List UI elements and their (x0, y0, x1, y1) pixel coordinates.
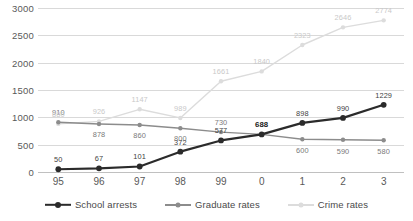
x-axis-tick-label: 2 (340, 176, 346, 187)
data-point-label: 990 (337, 103, 350, 112)
data-point[interactable] (259, 69, 263, 73)
data-point-label: 730 (215, 118, 228, 127)
data-point-label: 1661 (213, 67, 230, 76)
legend-item-crime-rates[interactable]: Crime rates (288, 199, 368, 210)
data-point-label: 580 (377, 147, 390, 156)
data-point-label: 926 (93, 107, 106, 116)
x-axis-tick-label: 97 (134, 176, 145, 187)
legend-item-label: Graduate rates (195, 199, 260, 210)
data-point-label: 2323 (294, 31, 311, 40)
legend-swatch-icon (165, 200, 191, 209)
y-axis-tick-label: 1000 (0, 112, 34, 123)
data-point[interactable] (55, 166, 61, 172)
series-line-school-arrests (58, 105, 383, 169)
data-point[interactable] (299, 120, 305, 126)
data-point[interactable] (137, 164, 143, 170)
data-point[interactable] (381, 102, 387, 108)
data-point-label: 577 (215, 126, 228, 135)
x-axis-tick-label: 95 (53, 176, 64, 187)
legend-item-school-arrests[interactable]: School arrests (45, 199, 137, 210)
line-chart: 050010001500200025003000 506710137257768… (0, 0, 413, 221)
data-point-label: 800 (174, 134, 187, 143)
x-axis-tick-label: 0 (259, 176, 265, 187)
data-point[interactable] (300, 43, 304, 47)
data-point-label: 600 (296, 146, 309, 155)
legend-swatch-icon (45, 200, 71, 209)
data-point-label: 880 (52, 109, 65, 118)
x-axis-tick-label: 99 (215, 176, 226, 187)
data-point[interactable] (341, 25, 345, 29)
data-point[interactable] (381, 18, 385, 22)
y-axis: 050010001500200025003000 (0, 8, 34, 172)
data-point-label: 688 (255, 120, 268, 129)
data-point[interactable] (177, 149, 183, 155)
data-point[interactable] (218, 138, 224, 144)
plot-area: 5067101372577688898990122991087886080073… (38, 8, 404, 172)
chart-legend: School arrests Graduate rates Crime rate… (0, 199, 413, 210)
data-point[interactable] (219, 79, 223, 83)
data-point-label: 989 (174, 103, 187, 112)
data-point-label: 860 (133, 130, 146, 139)
legend-swatch-icon (288, 200, 314, 209)
data-point[interactable] (56, 120, 60, 124)
data-point[interactable] (96, 165, 102, 171)
y-axis-tick-label: 3000 (0, 3, 34, 14)
data-point[interactable] (340, 115, 346, 121)
data-point-label: 1147 (132, 95, 148, 104)
x-axis-tick-label: 3 (381, 176, 387, 187)
data-point[interactable] (137, 107, 141, 111)
data-point-label: 101 (133, 152, 146, 161)
data-point-label: 50 (54, 155, 62, 164)
data-point-label: 1840 (253, 57, 270, 66)
legend-item-label: School arrests (75, 199, 137, 210)
x-axis-tick-label: 1 (300, 176, 306, 187)
data-point[interactable] (381, 138, 385, 142)
data-point[interactable] (137, 123, 141, 127)
x-axis-tick-label: 98 (175, 176, 186, 187)
data-point-label: 67 (95, 154, 103, 163)
x-axis-tick-label: 96 (93, 176, 104, 187)
y-axis-tick-label: 500 (0, 139, 34, 150)
y-axis-tick-label: 0 (0, 167, 34, 178)
data-point-label: 1229 (375, 90, 392, 99)
axis-baseline (38, 172, 404, 173)
data-point-label: 2646 (335, 13, 352, 22)
data-point-label: 878 (93, 130, 106, 139)
data-point-label: 2774 (375, 6, 392, 15)
y-axis-tick-label: 1500 (0, 85, 34, 96)
data-point[interactable] (259, 131, 265, 137)
legend-item-graduate-rates[interactable]: Graduate rates (165, 199, 260, 210)
data-point[interactable] (300, 137, 304, 141)
y-axis-tick-label: 2500 (0, 30, 34, 41)
y-axis-tick-label: 2000 (0, 57, 34, 68)
data-point-label: 898 (296, 108, 309, 117)
data-point[interactable] (97, 122, 101, 126)
data-point[interactable] (178, 126, 182, 130)
data-point[interactable] (341, 138, 345, 142)
data-point[interactable] (178, 116, 182, 120)
legend-item-label: Crime rates (318, 199, 368, 210)
data-point-label: 590 (337, 146, 350, 155)
